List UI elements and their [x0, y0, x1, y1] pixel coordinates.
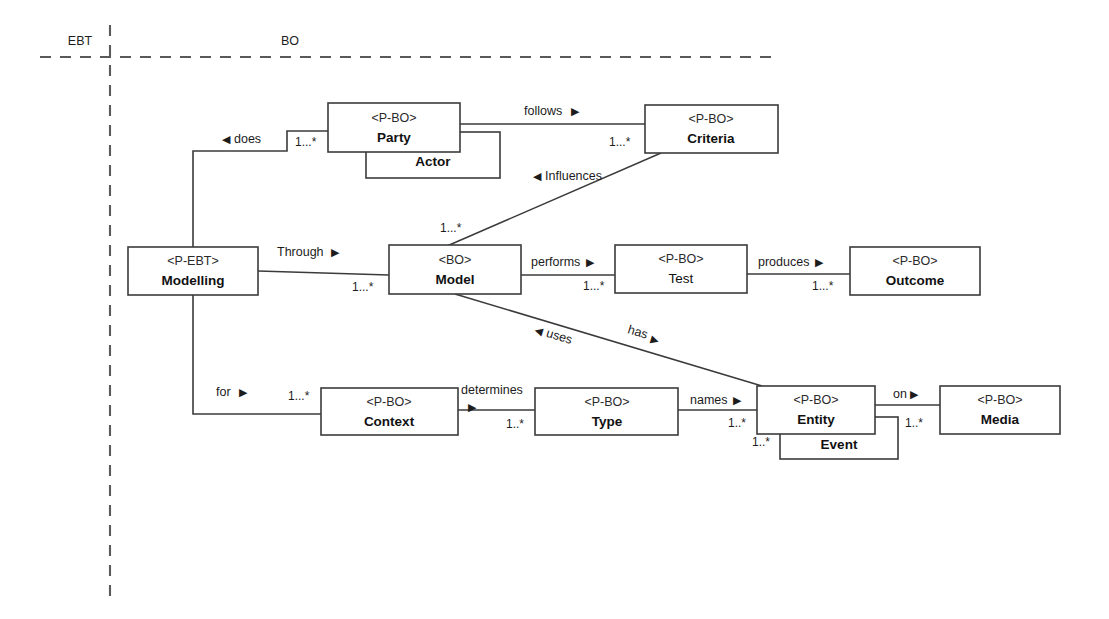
stereotype-test: <P-BO>	[658, 252, 703, 266]
arrow-right-icon: ▶	[571, 105, 580, 117]
connector-uses-has	[455, 294, 762, 386]
arrow-right-icon: ▶	[910, 388, 919, 400]
zone-label-ebt: EBT	[68, 34, 93, 48]
assoc-label-has: has ▶	[626, 322, 663, 346]
assoc-text-names: names	[690, 393, 728, 407]
multiplicity-party: 1...*	[295, 135, 317, 149]
diagram-canvas: EBT BO	[0, 0, 1109, 619]
stereotype-modelling: <P-EBT>	[167, 254, 218, 268]
multiplicity-type: 1..*	[506, 417, 524, 431]
assoc-label-follows: follows ▶	[524, 104, 580, 118]
class-name-party: Party	[377, 130, 411, 145]
assoc-text-follows: follows	[524, 104, 562, 118]
assoc-text-through: Through	[277, 245, 324, 259]
multiplicity-context: 1...*	[288, 389, 310, 403]
class-name-event: Event	[821, 437, 858, 452]
assoc-label-for: for ▶	[216, 385, 248, 399]
assoc-text-performs: performs	[531, 255, 580, 269]
assoc-label-uses: ◀ uses	[533, 322, 574, 346]
class-box-party[interactable]: <P-BO> Party	[328, 103, 460, 152]
assoc-label-through: Through ▶	[277, 245, 340, 259]
arrow-right-icon: ▶	[650, 333, 662, 347]
assoc-label-performs: performs ▶	[531, 255, 595, 269]
class-box-model[interactable]: <BO> Model	[389, 245, 521, 294]
arrow-right-icon: ▶	[331, 246, 340, 258]
class-name-outcome: Outcome	[886, 273, 945, 288]
stereotype-type: <P-BO>	[584, 395, 629, 409]
multiplicity-event: 1..*	[752, 435, 770, 449]
uml-class-diagram: EBT BO	[0, 0, 1109, 619]
class-name-context: Context	[364, 414, 415, 429]
assoc-label-determines: determines ▶	[461, 383, 523, 413]
connector-through	[258, 271, 389, 275]
stereotype-model: <BO>	[439, 253, 472, 267]
zone-label-bo: BO	[281, 34, 299, 48]
assoc-text-does: does	[234, 132, 261, 146]
assoc-text-has: has	[626, 322, 649, 341]
stereotype-media: <P-BO>	[977, 393, 1022, 407]
assoc-text-produces: produces	[758, 255, 809, 269]
arrow-right-icon: ▶	[586, 256, 595, 268]
class-name-modelling: Modelling	[162, 273, 225, 288]
multiplicity-criteria: 1...*	[609, 135, 631, 149]
class-box-outcome[interactable]: <P-BO> Outcome	[850, 247, 980, 295]
class-name-model: Model	[436, 272, 475, 287]
stereotype-party: <P-BO>	[371, 111, 416, 125]
class-name-type: Type	[592, 414, 623, 429]
multiplicity-model-left: 1...*	[352, 280, 374, 294]
class-box-test[interactable]: <P-BO> Test	[615, 245, 747, 293]
multiplicity-entity: 1..*	[728, 416, 746, 430]
assoc-text-determines: determines	[461, 383, 523, 397]
class-box-type[interactable]: <P-BO> Type	[535, 388, 678, 435]
class-name-actor: Actor	[415, 154, 451, 169]
assoc-label-produces: produces ▶	[758, 255, 824, 269]
arrow-right-icon: ▶	[239, 386, 248, 398]
arrow-left-icon: ◀	[222, 133, 231, 145]
multiplicity-media: 1..*	[905, 416, 923, 430]
stereotype-outcome: <P-BO>	[892, 254, 937, 268]
class-name-media: Media	[981, 412, 1020, 427]
class-name-entity: Entity	[797, 412, 835, 427]
class-name-test: Test	[669, 271, 694, 286]
multiplicity-model-top: 1...*	[440, 221, 462, 235]
class-box-media[interactable]: <P-BO> Media	[940, 386, 1060, 434]
class-box-criteria[interactable]: <P-BO> Criteria	[645, 105, 778, 153]
stereotype-entity: <P-BO>	[793, 393, 838, 407]
stereotype-context: <P-BO>	[366, 395, 411, 409]
class-box-entity[interactable]: <P-BO> Entity	[757, 386, 875, 434]
class-name-criteria: Criteria	[687, 131, 735, 146]
assoc-label-influences: ◀ Influences	[533, 169, 602, 183]
arrow-right-icon: ▶	[468, 401, 477, 413]
arrow-left-icon: ◀	[533, 323, 545, 337]
arrow-right-icon: ▶	[733, 394, 742, 406]
assoc-text-influences: Influences	[545, 169, 602, 183]
multiplicity-outcome: 1...*	[812, 279, 834, 293]
class-box-context[interactable]: <P-BO> Context	[321, 388, 458, 435]
assoc-label-on: on ▶	[893, 387, 919, 401]
multiplicity-test: 1...*	[583, 279, 605, 293]
arrow-left-icon: ◀	[533, 170, 542, 182]
assoc-text-for: for	[216, 385, 231, 399]
arrow-right-icon: ▶	[815, 256, 824, 268]
assoc-label-does: ◀ does	[222, 132, 261, 146]
class-box-modelling[interactable]: <P-EBT> Modelling	[128, 247, 258, 295]
assoc-text-on: on	[893, 387, 907, 401]
stereotype-criteria: <P-BO>	[688, 112, 733, 126]
assoc-label-names: names ▶	[690, 393, 742, 407]
